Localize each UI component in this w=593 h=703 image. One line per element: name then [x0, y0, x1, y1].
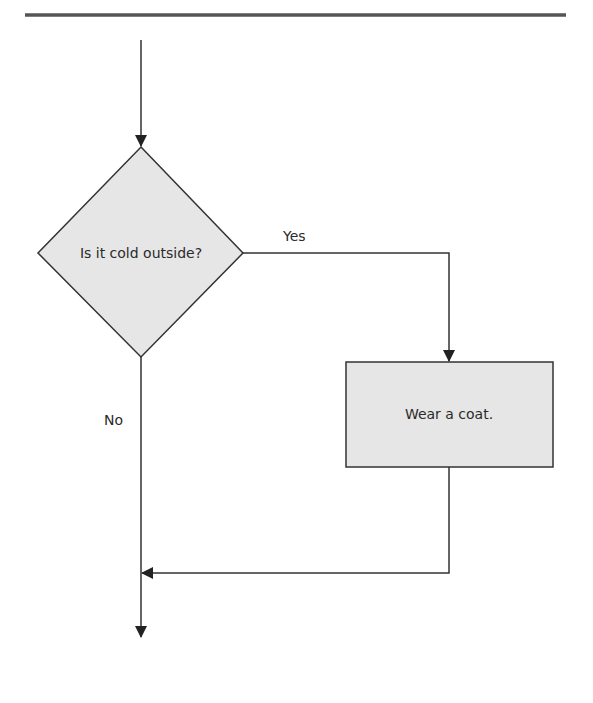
yes-label: Yes	[282, 228, 306, 244]
merge-edge	[142, 467, 449, 573]
flowchart-canvas: Is it cold outside? Yes Wear a coat. No	[0, 0, 593, 703]
yes-edge	[243, 253, 449, 361]
process-node: Wear a coat.	[346, 362, 553, 467]
process-text: Wear a coat.	[405, 406, 493, 422]
decision-node: Is it cold outside?	[38, 147, 243, 357]
decision-text: Is it cold outside?	[80, 245, 202, 261]
no-label: No	[104, 412, 123, 428]
